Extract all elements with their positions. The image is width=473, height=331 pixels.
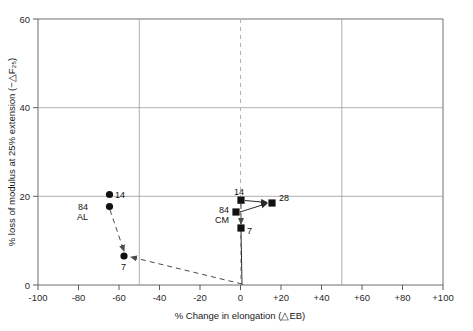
point-label-al-14: 14 [115, 190, 125, 200]
connector-origin-to-al-7 [131, 257, 242, 284]
x-tick-label: -60 [112, 292, 126, 303]
x-tick-label: -20 [193, 292, 207, 303]
data-point-al-14[interactable] [106, 191, 113, 198]
y-tick-label: 20 [19, 191, 30, 202]
y-tick-label: 60 [19, 14, 30, 25]
x-tick-label: 0 [238, 292, 243, 303]
x-axis-title: % Change in elongation (△EB) [175, 310, 306, 321]
connector-cm-7-to-axis [241, 231, 242, 285]
data-point-cm-28[interactable] [268, 199, 275, 206]
x-tick-label: +100 [432, 292, 453, 303]
point-label-cm-group: CM [215, 215, 229, 225]
x-tick-labels: -100 -80 -60 -40 -20 0 +20 +40 +60 +80 +… [28, 292, 453, 303]
y-tick-labels: 0 20 40 60 [19, 14, 30, 291]
point-label-al-84: 84 [78, 202, 88, 212]
y-axis-title: % loss of modulus at 25% extension (−△F₂… [6, 58, 17, 246]
data-point-cm-14[interactable] [237, 197, 244, 204]
horizontal-gridlines [38, 108, 443, 197]
x-tick-label: +20 [273, 292, 289, 303]
series-al: 14 84 AL 7 [77, 190, 242, 284]
point-label-cm-14: 14 [234, 187, 244, 197]
connector-cm-84-to-28 [240, 204, 267, 213]
x-tick-label: +60 [354, 292, 370, 303]
point-label-cm-28: 28 [279, 193, 289, 203]
point-label-al-7: 7 [121, 262, 126, 272]
x-tick-label: +40 [313, 292, 329, 303]
data-point-al-84[interactable] [106, 203, 113, 210]
connector-al-84-to-7 [110, 210, 124, 251]
y-tick-label: 0 [25, 280, 30, 291]
point-label-cm-84: 84 [219, 205, 229, 215]
data-point-al-7[interactable] [120, 252, 127, 259]
scatter-plot-svg: -100 -80 -60 -40 -20 0 +20 +40 +60 +80 +… [0, 0, 473, 331]
data-point-cm-84[interactable] [232, 208, 239, 215]
series-cm: 14 84 CM 28 7 [215, 187, 289, 285]
y-tick-label: 40 [19, 102, 30, 113]
point-label-cm-7: 7 [247, 226, 252, 236]
y-tick-marks [33, 19, 38, 285]
x-tick-marks [38, 285, 443, 290]
point-label-al-group: AL [77, 212, 88, 222]
data-point-cm-7[interactable] [237, 224, 244, 231]
x-tick-label: -100 [28, 292, 47, 303]
x-tick-label: +80 [394, 292, 410, 303]
x-tick-label: -80 [72, 292, 86, 303]
x-tick-label: -40 [153, 292, 167, 303]
chart-container: -100 -80 -60 -40 -20 0 +20 +40 +60 +80 +… [0, 0, 473, 331]
connector-cm-14-to-28 [245, 201, 267, 203]
